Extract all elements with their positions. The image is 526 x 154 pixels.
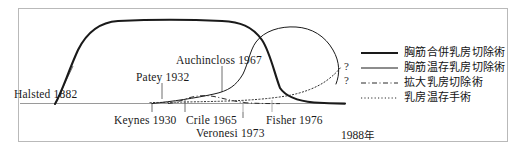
x-axis-year-number: 1988 [341,129,364,141]
legend-label-radical-mastectomy: 胸筋合併乳房切除術 [404,47,506,59]
x-axis-year-label: 1988年 [341,127,374,142]
annotation-veronesi: Veronesi 1973 [196,127,265,139]
x-axis-year-suffix: 年 [364,129,374,141]
annotation-patey: Patey 1932 [136,71,189,83]
legend-label-extended-mastectomy: 拡大乳房切除術 [404,77,483,89]
uncertainty-marker-dotted: ? [344,60,349,72]
annotation-auchincloss: Auchincloss 1967 [176,54,262,66]
annotation-halsted: Halsted 1882 [14,88,77,100]
legend-label-breast-conserving-surgery: 乳房温存手術 [404,92,472,104]
annotation-crile: Crile 1965 [186,114,237,126]
legend-label-modified-radical-mastectomy: 胸筋温存乳房切除術 [404,62,506,74]
annotation-fisher: Fisher 1976 [266,114,323,126]
uncertainty-marker-thin-solid: ? [344,74,349,86]
surgery-trend-figure: ? ? Halsted 1882 Patey 1932 Auchincloss … [0,0,526,154]
annotation-keynes: Keynes 1930 [114,114,177,126]
